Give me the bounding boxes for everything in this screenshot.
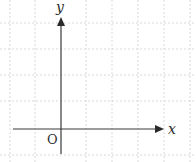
origin-label: O xyxy=(47,132,58,147)
x-axis-label: x xyxy=(168,121,176,137)
grid xyxy=(0,0,196,162)
x-axis-arrow-icon xyxy=(155,125,164,133)
coordinate-plane: x y O xyxy=(0,0,196,162)
y-axis-label: y xyxy=(55,0,65,15)
y-axis-arrow-icon xyxy=(57,17,65,26)
